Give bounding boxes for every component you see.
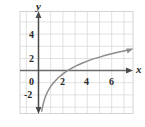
y-axis [36, 11, 42, 114]
graph-figure: y x 4 2 -2 0 2 4 6 [0, 0, 145, 127]
y-tick-label-2: 2 [29, 54, 34, 64]
plot-border [20, 12, 133, 114]
origin-label: 0 [29, 77, 34, 87]
x-tick-label-6: 6 [109, 77, 114, 87]
y-tick-label-4: 4 [29, 30, 34, 40]
coordinate-plane [0, 0, 145, 127]
x-tick-label-2: 2 [60, 77, 65, 87]
y-tick-label-negative-2: -2 [24, 90, 32, 100]
x-tick-label-4: 4 [84, 77, 89, 87]
x-axis-label: x [136, 64, 142, 75]
x-axis [20, 68, 133, 74]
y-axis-label: y [36, 1, 41, 12]
grid-lines [20, 12, 133, 114]
